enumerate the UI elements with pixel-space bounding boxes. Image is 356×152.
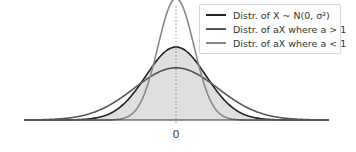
legend-item-standard: Distr. of X ~ N(0, σ²)	[206, 8, 330, 22]
legend-label: Distr. of aX where a < 1	[233, 38, 346, 49]
legend-item-a-less: Distr. of aX where a < 1	[206, 36, 346, 50]
legend-label: Distr. of X ~ N(0, σ²)	[233, 10, 330, 21]
legend-item-a-greater: Distr. of aX where a > 1	[206, 22, 346, 36]
shaded-area-under-standard-normal	[24, 47, 329, 120]
legend-swatch-icon	[206, 42, 226, 44]
x-tick-zero: 0	[166, 128, 186, 141]
legend-swatch-icon	[206, 28, 226, 30]
legend: Distr. of X ~ N(0, σ²) Distr. of aX wher…	[199, 4, 341, 54]
legend-swatch-icon	[206, 14, 226, 16]
legend-label: Distr. of aX where a > 1	[233, 24, 346, 35]
